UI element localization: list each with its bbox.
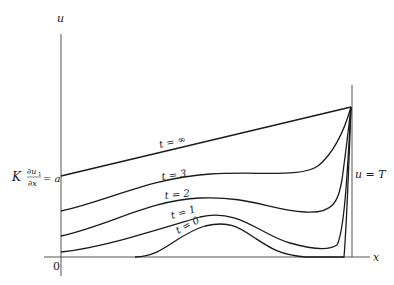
y-axis-label: u	[57, 12, 64, 25]
x-axis-label: x	[373, 251, 380, 264]
heat-profile-diagram: u x 0 K ∂u 1 ∂x = a u = T t = ∞ t = 3 t …	[0, 0, 394, 285]
boundary-value-a: = a	[43, 173, 61, 184]
curve-t-2	[61, 107, 351, 236]
k-coefficient: K	[11, 170, 22, 184]
curve-t-3	[61, 107, 351, 211]
label-t-3: t = 3	[161, 168, 187, 182]
origin-label: 0	[53, 260, 60, 273]
curve-t-1	[61, 107, 351, 252]
left-boundary-condition: K ∂u 1 ∂x = a	[11, 167, 61, 188]
derivative-numerator-subscript: 1	[38, 171, 42, 177]
derivative-denominator: ∂x	[28, 179, 37, 188]
curve-t-infinity	[61, 107, 351, 176]
right-boundary-condition: u = T	[355, 168, 387, 181]
curve-t-0	[135, 107, 351, 257]
derivative-numerator: ∂u	[27, 167, 36, 176]
